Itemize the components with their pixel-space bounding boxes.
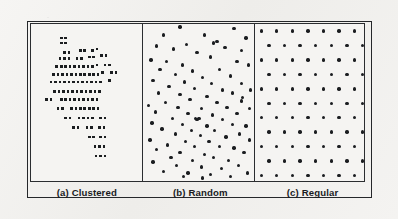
data-point — [147, 104, 150, 107]
data-point — [88, 107, 91, 110]
data-point — [353, 29, 356, 32]
data-point — [60, 42, 63, 45]
data-point — [67, 90, 70, 93]
panel-regular — [254, 23, 365, 182]
scatter-plot-regular — [255, 24, 364, 181]
data-point — [242, 151, 245, 154]
data-point — [353, 174, 356, 177]
caption-tag-a: (a) — [57, 187, 69, 198]
data-point — [63, 81, 66, 84]
data-point — [104, 136, 107, 139]
caption-tag-c: (c) — [287, 187, 299, 198]
data-point — [197, 117, 200, 120]
data-point — [115, 71, 118, 74]
data-point — [172, 47, 175, 50]
data-point — [103, 145, 106, 148]
data-point — [91, 65, 94, 68]
data-point — [361, 73, 364, 76]
data-point — [72, 81, 75, 84]
data-point — [94, 90, 97, 93]
data-point — [100, 54, 103, 57]
data-point — [240, 82, 243, 85]
data-point — [205, 124, 208, 127]
data-point — [283, 73, 286, 76]
caption-regular: (c) Regular — [257, 184, 368, 200]
data-point — [61, 107, 64, 110]
caption-tag-b: (b) — [173, 187, 186, 198]
data-point — [244, 124, 247, 127]
data-point — [306, 87, 309, 90]
data-point — [157, 91, 160, 94]
data-point — [337, 58, 340, 61]
data-point — [68, 57, 71, 60]
data-point — [191, 159, 194, 162]
data-point — [148, 138, 151, 141]
data-point — [79, 107, 82, 110]
panel-clustered — [30, 23, 144, 182]
data-point — [98, 90, 101, 93]
data-point — [78, 117, 81, 120]
data-point — [275, 145, 278, 148]
data-point — [63, 57, 66, 60]
data-point — [267, 102, 270, 105]
data-point — [60, 65, 63, 68]
data-point — [87, 117, 90, 120]
data-point — [221, 118, 224, 121]
data-point — [76, 90, 79, 93]
data-point — [361, 102, 364, 105]
data-point — [78, 98, 81, 101]
data-point — [89, 90, 92, 93]
data-point — [291, 87, 294, 90]
data-point — [337, 87, 340, 90]
data-point — [90, 81, 93, 84]
data-point — [95, 155, 98, 158]
data-point — [64, 65, 67, 68]
data-point — [248, 138, 251, 141]
panel-random — [142, 23, 256, 182]
data-point — [174, 73, 177, 76]
data-point — [353, 87, 356, 90]
data-point — [155, 44, 158, 47]
data-point — [361, 159, 364, 162]
caption-label-c: Regular — [302, 187, 338, 198]
data-point — [306, 116, 309, 119]
data-point — [353, 145, 356, 148]
data-point — [80, 57, 83, 60]
data-point — [330, 44, 333, 47]
data-point — [62, 90, 65, 93]
data-point — [73, 65, 76, 68]
data-point — [235, 60, 238, 63]
data-point — [248, 107, 251, 110]
data-point — [229, 175, 232, 178]
data-point — [88, 73, 91, 76]
data-point — [213, 129, 216, 132]
data-point — [306, 174, 309, 177]
data-point — [201, 176, 204, 179]
data-point — [231, 123, 234, 126]
data-point — [108, 79, 111, 82]
data-point — [83, 107, 86, 110]
data-point — [184, 140, 187, 143]
data-point — [66, 73, 69, 76]
data-point — [244, 36, 247, 39]
data-point — [158, 68, 161, 71]
data-point — [176, 106, 179, 109]
data-point — [345, 159, 348, 162]
data-point — [203, 153, 206, 156]
data-point — [298, 44, 301, 47]
data-point — [69, 117, 72, 120]
data-point — [94, 145, 97, 148]
data-point — [69, 65, 72, 68]
data-point — [240, 99, 243, 102]
data-point — [45, 98, 48, 101]
data-point — [190, 129, 193, 132]
figure-page: (a) Clustered (b) Random (c) Regular — [0, 0, 398, 219]
data-point — [151, 160, 154, 163]
data-point — [92, 73, 95, 76]
data-point — [104, 64, 107, 67]
data-point — [238, 132, 241, 135]
data-point — [225, 106, 228, 109]
data-point — [86, 81, 89, 84]
data-point — [337, 29, 340, 32]
data-point — [232, 27, 235, 30]
